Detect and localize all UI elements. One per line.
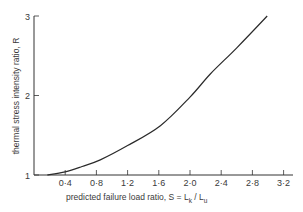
x-axis-label: predicted failure load ratio, S = Lk / L… <box>66 192 208 204</box>
y-ticks: 123 <box>25 12 39 181</box>
y-tick-label: 2 <box>25 91 30 101</box>
x-tick-label: 2·0 <box>183 178 196 188</box>
x-tick-label: 3·2 <box>277 178 290 188</box>
x-tick-label: 1·2 <box>121 178 134 188</box>
x-ticks: 0·40·81·21·62·02·42·83·2 <box>59 170 290 188</box>
y-tick-label: 1 <box>25 171 30 181</box>
x-tick-label: 2·8 <box>246 178 259 188</box>
x-tick-label: 0·8 <box>90 178 103 188</box>
x-tick-label: 0·4 <box>59 178 72 188</box>
data-curve <box>47 16 267 175</box>
x-label-sub-u: u <box>204 197 208 204</box>
x-tick-label: 1·6 <box>152 178 165 188</box>
x-label-mid: / L <box>192 192 204 202</box>
axes <box>34 16 293 175</box>
x-tick-label: 2·4 <box>215 178 228 188</box>
y-tick-label: 3 <box>25 12 30 22</box>
chart: 123 0·40·81·21·62·02·42·83·2 thermal str… <box>0 0 303 212</box>
x-label-prefix: predicted failure load ratio, S = L <box>66 192 189 202</box>
y-axis-label: thermal stress intensity ratio, R <box>11 38 21 155</box>
